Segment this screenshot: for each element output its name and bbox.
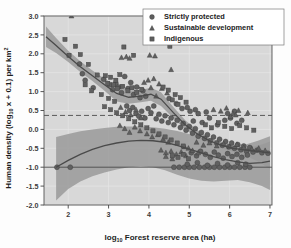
point-square bbox=[139, 123, 143, 127]
x-axis: 234567 bbox=[66, 205, 272, 219]
point-square bbox=[178, 96, 182, 100]
point-circle bbox=[159, 119, 164, 124]
point-square bbox=[111, 83, 115, 87]
point-square bbox=[127, 117, 131, 121]
point-circle bbox=[222, 118, 227, 123]
point-square bbox=[122, 45, 126, 49]
x-tick-label: 4 bbox=[147, 210, 151, 219]
x-axis-title-rest: Forest reserve area (ha) bbox=[123, 233, 216, 242]
point-circle bbox=[169, 116, 174, 121]
point-circle bbox=[225, 151, 230, 156]
y-tick-label: 1.5 bbox=[29, 68, 39, 77]
point-square bbox=[135, 90, 139, 94]
point-circle bbox=[211, 134, 216, 139]
point-square bbox=[102, 105, 106, 109]
point-circle bbox=[195, 160, 200, 165]
point-square bbox=[108, 108, 112, 112]
point-square bbox=[176, 155, 180, 159]
point-square bbox=[184, 100, 188, 104]
point-circle bbox=[139, 109, 144, 114]
point-square bbox=[90, 89, 94, 93]
point-square bbox=[145, 126, 149, 130]
point-circle bbox=[128, 80, 133, 85]
point-circle bbox=[225, 162, 230, 167]
point-square bbox=[186, 157, 190, 161]
point-circle bbox=[239, 155, 244, 160]
point-circle bbox=[83, 78, 88, 83]
point-square bbox=[86, 62, 90, 66]
point-square bbox=[169, 138, 173, 142]
point-circle bbox=[151, 103, 156, 108]
point-square bbox=[209, 126, 213, 130]
point-square bbox=[140, 87, 144, 91]
point-square bbox=[63, 37, 67, 41]
point-circle bbox=[177, 165, 182, 170]
point-circle bbox=[204, 110, 209, 115]
point-square bbox=[170, 98, 174, 102]
point-square bbox=[252, 128, 256, 132]
point-circle bbox=[80, 71, 85, 76]
point-square bbox=[83, 83, 87, 87]
point-circle bbox=[205, 132, 210, 137]
x-tick-label: 3 bbox=[107, 210, 111, 219]
point-square bbox=[170, 154, 174, 158]
point-circle bbox=[122, 74, 127, 79]
point-square bbox=[176, 102, 180, 106]
x-tick-label: 5 bbox=[187, 210, 191, 219]
point-square bbox=[157, 132, 161, 136]
y-axis-title-sup: 2 bbox=[3, 47, 9, 50]
point-circle bbox=[245, 153, 250, 158]
y-tick-label: -2.0 bbox=[26, 201, 38, 210]
y-tick-label: 3.0 bbox=[29, 12, 39, 21]
y-tick-label: 1.0 bbox=[29, 87, 39, 96]
point-square bbox=[173, 93, 177, 97]
point-circle bbox=[234, 152, 239, 157]
point-square bbox=[216, 121, 220, 125]
legend-label: Strictly protected bbox=[164, 12, 225, 21]
point-square bbox=[151, 129, 155, 133]
point-circle bbox=[171, 122, 176, 127]
point-square bbox=[121, 114, 125, 118]
chart-figure: 234567 -2.0-1.5-1.0-0.50.00.51.01.52.02.… bbox=[0, 0, 291, 248]
scatter-plot: 234567 -2.0-1.5-1.0-0.50.00.51.01.52.02.… bbox=[0, 0, 291, 248]
chart-legend: Strictly protectedSustainable developmen… bbox=[143, 9, 284, 45]
y-tick-label: 2.5 bbox=[29, 31, 39, 40]
point-square bbox=[223, 124, 227, 128]
point-square bbox=[131, 53, 135, 57]
x-tick-label: 6 bbox=[228, 210, 232, 219]
point-circle bbox=[199, 130, 204, 135]
legend-label: Indigenous bbox=[164, 34, 203, 43]
point-square bbox=[121, 84, 125, 88]
point-circle bbox=[185, 105, 190, 110]
point-square bbox=[230, 127, 234, 131]
point-circle bbox=[192, 165, 197, 170]
point-circle bbox=[157, 112, 162, 117]
point-square bbox=[106, 96, 110, 100]
point-circle bbox=[225, 111, 230, 116]
legend-marker-circle bbox=[150, 15, 155, 20]
point-square bbox=[238, 124, 242, 128]
point-square bbox=[181, 152, 185, 156]
point-square bbox=[133, 120, 137, 124]
point-circle bbox=[239, 118, 244, 123]
point-circle bbox=[230, 154, 235, 159]
point-square bbox=[73, 44, 77, 48]
point-square bbox=[114, 78, 118, 82]
x-tick-label: 2 bbox=[66, 210, 70, 219]
point-circle bbox=[207, 116, 212, 121]
point-circle bbox=[163, 113, 168, 118]
point-square bbox=[103, 74, 107, 78]
y-tick-label: -0.5 bbox=[26, 144, 38, 153]
point-circle bbox=[124, 103, 129, 108]
x-tick-label: 7 bbox=[268, 210, 272, 219]
y-axis-title-rest: x + 0.1) per km bbox=[4, 50, 13, 108]
y-tick-label: -1.5 bbox=[26, 182, 38, 191]
point-circle bbox=[148, 110, 153, 115]
y-axis-title-main: Human density (log bbox=[4, 114, 13, 188]
point-circle bbox=[130, 105, 135, 110]
point-circle bbox=[191, 119, 196, 124]
point-square bbox=[108, 75, 112, 79]
point-square bbox=[203, 123, 207, 127]
point-circle bbox=[197, 165, 202, 170]
y-tick-label: 2.0 bbox=[29, 49, 39, 58]
